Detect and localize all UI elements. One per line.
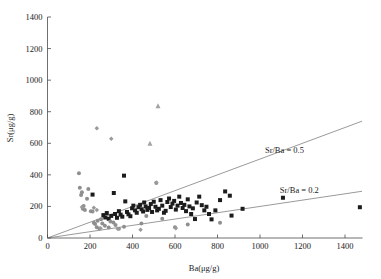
- data-point: [281, 196, 285, 200]
- data-point: [164, 209, 168, 213]
- data-point: [99, 217, 103, 221]
- x-tick-label: 800: [211, 241, 224, 251]
- data-point: [107, 226, 111, 230]
- data-point: [141, 209, 145, 213]
- data-point: [197, 195, 201, 199]
- data-point: [202, 208, 206, 212]
- reference-lines: [48, 121, 363, 238]
- data-point: [96, 219, 100, 223]
- data-point: [160, 204, 164, 208]
- data-point: [169, 205, 173, 209]
- data-point: [103, 224, 107, 228]
- y-tick-label: 1200: [26, 44, 43, 54]
- ratio-label-0.5: Sr/Ba = 0.5: [265, 145, 304, 155]
- data-point: [184, 209, 188, 213]
- x-tick-label: 200: [84, 241, 97, 251]
- data-point: [123, 199, 127, 203]
- data-point: [186, 222, 190, 226]
- x-axis-title: Ba(μg/g): [189, 263, 220, 273]
- data-point: [86, 187, 90, 191]
- data-point: [105, 211, 109, 215]
- data-point: [139, 221, 143, 225]
- data-point: [159, 198, 163, 202]
- y-tick-label: 200: [30, 201, 43, 211]
- ratio-line-0.2: [48, 191, 363, 238]
- data-point: [120, 215, 124, 219]
- data-point: [189, 212, 193, 216]
- data-point: [182, 203, 186, 207]
- data-point: [138, 203, 142, 207]
- data-point: [165, 200, 169, 204]
- data-point: [153, 205, 157, 209]
- y-tick-label: 1400: [26, 12, 43, 22]
- y-tick-label: 400: [30, 170, 43, 180]
- data-point: [207, 212, 211, 216]
- data-point: [122, 225, 126, 229]
- data-point: [156, 103, 161, 108]
- y-tick-label: 1000: [26, 75, 43, 85]
- data-point: [91, 209, 95, 213]
- data-point: [109, 214, 113, 218]
- data-point: [85, 197, 89, 201]
- data-point: [112, 191, 116, 195]
- data-point: [204, 205, 208, 209]
- data-point: [117, 209, 121, 213]
- data-point: [172, 199, 176, 203]
- data-point: [213, 208, 217, 212]
- data-point: [195, 200, 199, 204]
- data-point: [230, 214, 234, 218]
- data-point: [152, 200, 156, 204]
- data-point: [358, 205, 362, 209]
- data-point: [138, 228, 143, 233]
- series-gray-triangles: [147, 103, 160, 146]
- data-point: [223, 189, 227, 193]
- data-point: [95, 126, 100, 131]
- x-tick-label: 600: [169, 241, 182, 251]
- data-point: [77, 171, 81, 175]
- x-tick-label: 1000: [252, 241, 269, 251]
- data-point: [83, 208, 87, 212]
- data-point: [131, 204, 135, 208]
- data-point: [218, 221, 222, 225]
- data-point: [160, 217, 164, 221]
- data-point: [177, 195, 181, 199]
- data-point: [191, 206, 195, 210]
- data-point: [200, 203, 204, 207]
- data-point: [210, 217, 214, 221]
- x-axis-ticks: 0200400600800100012001400: [45, 235, 353, 252]
- data-point: [80, 190, 84, 194]
- x-tick-label: 1400: [337, 241, 354, 251]
- chart-canvas: 0200400600800100012001400 02004006008001…: [0, 0, 381, 279]
- data-point: [113, 212, 117, 216]
- data-point: [91, 193, 95, 197]
- data-point: [142, 200, 146, 204]
- y-tick-label: 800: [30, 107, 43, 117]
- data-point: [114, 223, 118, 227]
- data-point: [193, 217, 197, 221]
- ratio-line-0.5: [48, 121, 363, 238]
- data-point: [147, 141, 152, 146]
- y-axis-title: Sr(μg/g): [5, 114, 15, 143]
- x-tick-label: 1200: [294, 241, 311, 251]
- data-point: [122, 174, 126, 178]
- ratio-label-0.2: Sr/Ba = 0.2: [280, 185, 319, 195]
- data-point: [128, 214, 132, 218]
- data-point: [241, 207, 245, 211]
- data-point: [144, 214, 148, 218]
- y-tick-label: 600: [30, 138, 43, 148]
- data-point: [228, 194, 232, 198]
- data-point: [179, 201, 183, 205]
- y-tick-label: 0: [38, 233, 42, 243]
- data-point: [135, 211, 139, 215]
- data-point: [78, 186, 82, 190]
- data-point: [167, 197, 171, 201]
- data-point: [115, 216, 119, 220]
- series-gray-circles: [77, 171, 222, 231]
- x-tick-label: 0: [45, 241, 49, 251]
- data-point: [174, 208, 178, 212]
- x-tick-label: 400: [126, 241, 139, 251]
- data-point: [109, 137, 114, 142]
- data-point: [218, 198, 222, 202]
- annotation-layer: Sr/Ba = 0.5Sr/Ba = 0.2: [265, 145, 319, 196]
- scatter-chart: 0200400600800100012001400 02004006008001…: [0, 0, 381, 279]
